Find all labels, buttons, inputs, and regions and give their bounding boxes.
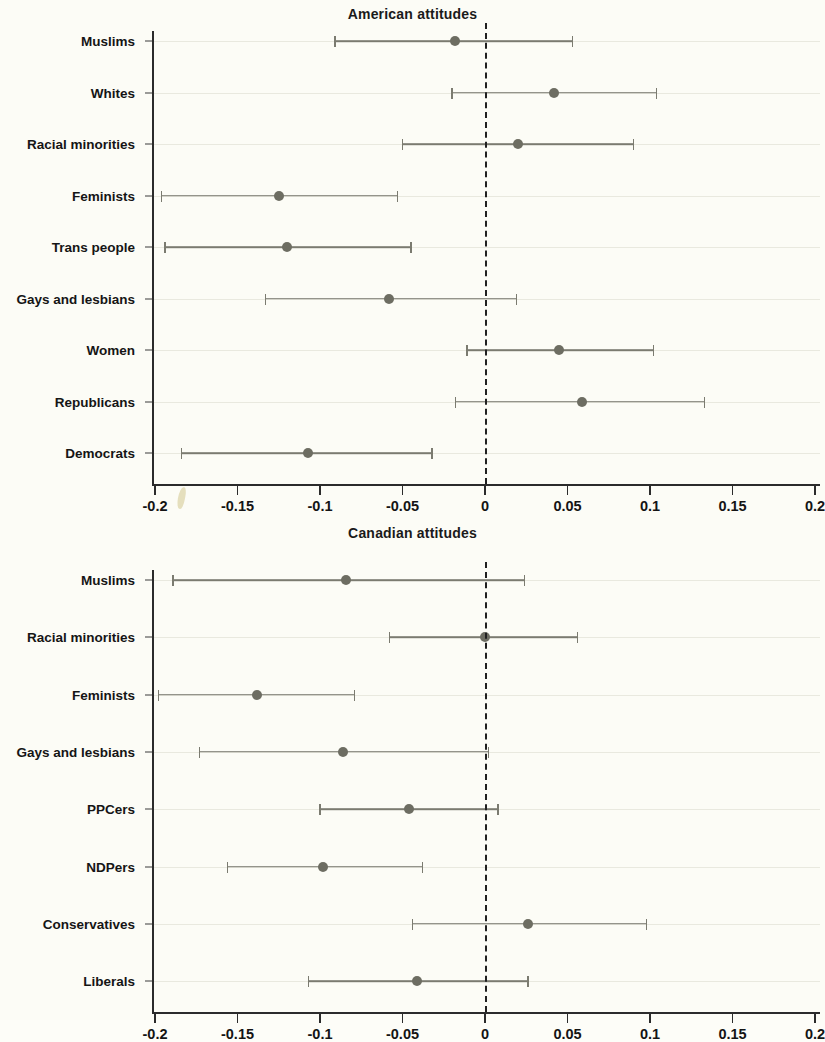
x-axis-tick-label: -0.05	[386, 498, 419, 514]
category-label: PPCers	[87, 802, 135, 817]
ci-cap-high	[397, 191, 399, 202]
point-estimate-marker	[404, 804, 414, 814]
point-estimate-marker	[341, 575, 351, 585]
ci-cap-low	[451, 88, 453, 99]
category-label: Feminists	[72, 188, 135, 203]
point-estimate-marker	[303, 448, 313, 458]
point-estimate-marker	[412, 976, 422, 986]
x-axis-line	[152, 1012, 820, 1014]
x-axis-tick	[814, 486, 816, 495]
category-label: Democrats	[65, 446, 135, 461]
point-estimate-marker	[554, 345, 564, 355]
ci-cap-high	[646, 919, 648, 930]
ci-cap-high	[704, 397, 706, 408]
point-estimate-marker	[384, 294, 394, 304]
x-axis-tick	[402, 1014, 404, 1023]
ci-cap-high	[497, 804, 499, 815]
category-label: NDPers	[86, 859, 135, 874]
x-axis-tick	[319, 486, 321, 495]
ci-cap-low	[158, 690, 160, 701]
x-axis-tick-label: 0.15	[718, 498, 746, 514]
plot-area-canadian: MuslimsRacial minoritiesFeministsGays an…	[0, 545, 825, 985]
ci-cap-low	[164, 242, 166, 253]
ci-cap-high	[488, 747, 490, 758]
category-label: Conservatives	[43, 916, 135, 931]
ci-cap-high	[354, 690, 356, 701]
panel-title-american: American attitudes	[0, 6, 825, 22]
category-label: Racial minorities	[27, 137, 135, 152]
ci-cap-low	[334, 36, 336, 47]
x-axis-tick	[237, 1014, 239, 1023]
ci-cap-high	[422, 862, 424, 873]
x-axis-tick	[567, 1014, 569, 1023]
category-label: Gays and lesbians	[16, 291, 135, 306]
x-axis-tick-label: -0.2	[143, 1026, 168, 1042]
point-estimate-marker	[282, 242, 292, 252]
category-label: Trans people	[52, 240, 135, 255]
category-label: Muslims	[81, 34, 135, 49]
zero-reference-line	[485, 23, 487, 484]
ci-cap-low	[308, 976, 310, 987]
ci-cap-high	[410, 242, 412, 253]
category-label: Feminists	[72, 687, 135, 702]
x-axis-tick-label: -0.15	[221, 1026, 254, 1042]
x-axis-tick	[319, 1014, 321, 1023]
x-axis-tick-label: 0	[481, 1026, 489, 1042]
y-axis-spine	[152, 31, 154, 484]
plot-area-american: MuslimsWhitesRacial minoritiesFeministsT…	[0, 22, 825, 462]
point-estimate-marker	[274, 191, 284, 201]
x-axis-tick-label: 0.1	[640, 498, 660, 514]
ci-cap-high	[527, 976, 529, 987]
x-axis-tick	[649, 1014, 651, 1023]
ci-cap-high	[572, 36, 574, 47]
panel-canadian-attitudes: Canadian attitudes MuslimsRacial minorit…	[0, 515, 825, 1020]
ci-cap-low	[389, 632, 391, 643]
x-axis-tick-label: 0.1	[640, 1026, 660, 1042]
ci-cap-low	[319, 804, 321, 815]
x-axis-tick-label: 0.2	[805, 498, 825, 514]
x-axis-tick	[567, 486, 569, 495]
ci-cap-low	[265, 294, 267, 305]
x-axis-tick	[484, 486, 486, 495]
point-estimate-marker	[513, 139, 523, 149]
x-axis-tick-label: -0.15	[221, 498, 254, 514]
category-label: Gays and lesbians	[16, 744, 135, 759]
x-axis-tick	[732, 1014, 734, 1023]
panel-american-attitudes: American attitudes MuslimsWhitesRacial m…	[0, 0, 825, 505]
x-axis-tick	[814, 1014, 816, 1023]
ci-cap-low	[161, 191, 163, 202]
x-axis-tick	[154, 1014, 156, 1023]
ci-cap-low	[227, 862, 229, 873]
panel-title-canadian: Canadian attitudes	[0, 525, 825, 541]
category-label: Republicans	[55, 394, 135, 409]
ci-cap-low	[402, 139, 404, 150]
category-label: Muslims	[81, 573, 135, 588]
x-axis-tick-label: 0.2	[805, 1026, 825, 1042]
y-axis-spine	[152, 570, 154, 1012]
point-estimate-marker	[523, 919, 533, 929]
x-axis-tick-label: 0.15	[718, 1026, 746, 1042]
ci-cap-high	[653, 345, 655, 356]
x-axis-tick-label: -0.05	[386, 1026, 419, 1042]
point-estimate-marker	[252, 690, 262, 700]
zero-reference-line	[485, 562, 487, 1012]
ci-cap-high	[633, 139, 635, 150]
point-estimate-marker	[338, 747, 348, 757]
x-axis-tick	[649, 486, 651, 495]
x-axis-tick	[237, 486, 239, 495]
point-estimate-marker	[318, 862, 328, 872]
category-label: Whites	[91, 85, 135, 100]
ci-cap-high	[524, 575, 526, 586]
ci-cap-high	[431, 448, 433, 459]
x-axis-tick	[484, 1014, 486, 1023]
x-axis-tick	[154, 486, 156, 495]
x-axis-tick-label: -0.1	[308, 498, 333, 514]
point-estimate-marker	[549, 88, 559, 98]
x-axis-tick	[732, 486, 734, 495]
point-estimate-marker	[577, 397, 587, 407]
category-label: Liberals	[83, 974, 135, 989]
ci-cap-low	[199, 747, 201, 758]
x-axis-line	[152, 484, 820, 486]
ci-cap-low	[172, 575, 174, 586]
